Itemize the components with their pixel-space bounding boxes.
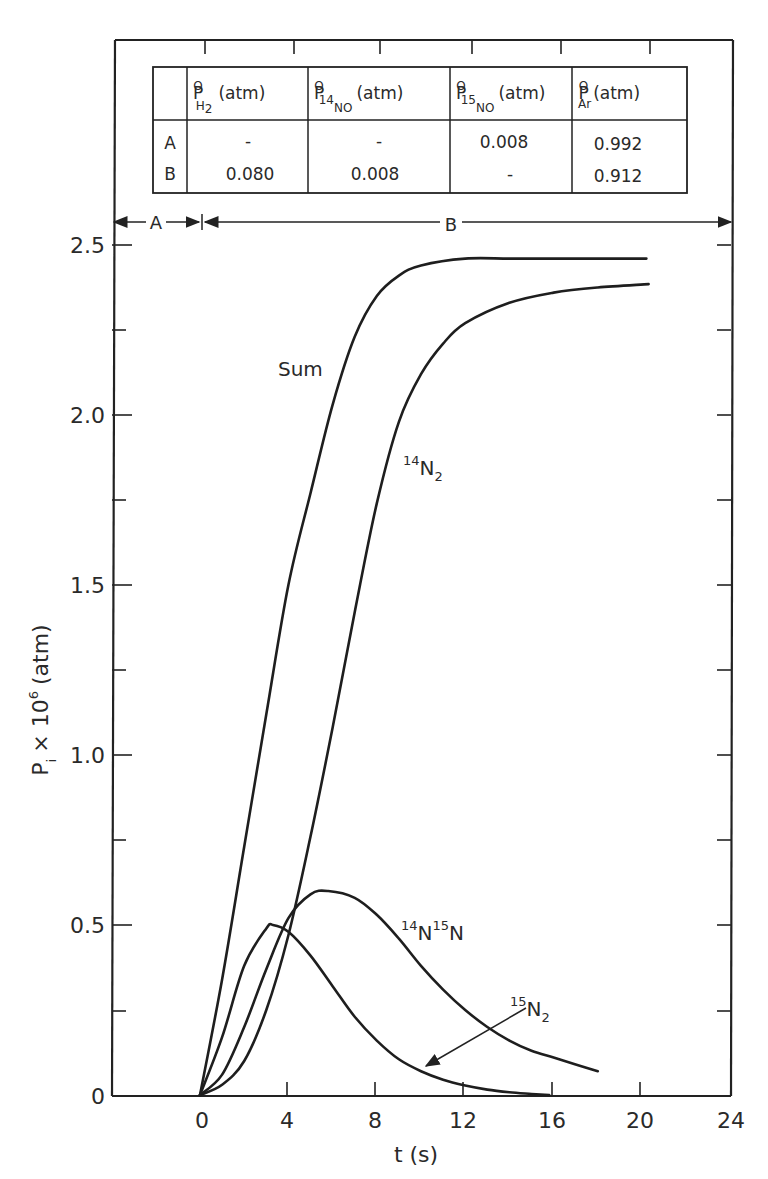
label-14n15n: 14N15N xyxy=(401,918,464,945)
chart-canvas: 0 0.5 1.0 1.5 2.0 2.5 0 4 8 12 16 20 24 … xyxy=(0,0,768,1179)
table-row-b-label: B xyxy=(164,164,176,184)
table-row-b-14no: 0.008 xyxy=(351,164,400,184)
y-axis-label: Pi× 106(atm) xyxy=(26,624,59,775)
top-ticks xyxy=(205,40,650,54)
table-header-15no: PO15NO(atm) xyxy=(456,79,545,115)
x-tick-12: 12 xyxy=(449,1108,477,1133)
x-tick-0: 0 xyxy=(195,1108,209,1133)
table-row-b-ar: 0.912 xyxy=(594,166,643,186)
label-sum: Sum xyxy=(278,357,323,381)
curve-14n2 xyxy=(200,284,649,1095)
x-tick-8: 8 xyxy=(368,1108,382,1133)
x-tick-20: 20 xyxy=(626,1108,654,1133)
x-tick-16: 16 xyxy=(538,1108,566,1133)
arrow-15n2 xyxy=(426,1008,526,1066)
region-arrows xyxy=(114,214,731,230)
label-14n2: 14N2 xyxy=(403,453,443,484)
y-tick-1.0: 1.0 xyxy=(70,743,105,768)
y-tick-0.5: 0.5 xyxy=(70,913,105,938)
label-15n2: 15N2 xyxy=(510,994,550,1025)
table-row-b-h2: 0.080 xyxy=(226,164,275,184)
table-row-a-ar: 0.992 xyxy=(594,134,643,154)
y-tick-1.5: 1.5 xyxy=(70,573,105,598)
table-header-14no: PO14NO(atm) xyxy=(314,79,403,115)
right-ticks xyxy=(717,245,731,1011)
y-tick-2.5: 2.5 xyxy=(70,233,105,258)
table-row-a-15no: 0.008 xyxy=(480,132,529,152)
table-header-ar: POAr(atm) xyxy=(578,79,640,111)
curves xyxy=(200,258,649,1095)
region-b-label: B xyxy=(445,214,457,235)
curve-14n15n xyxy=(200,891,598,1095)
svg-text:Pi× 106(atm): Pi× 106(atm) xyxy=(26,624,59,775)
y-tick-2.0: 2.0 xyxy=(70,403,105,428)
x-tick-4: 4 xyxy=(280,1108,294,1133)
y-tick-labels: 0 0.5 1.0 1.5 2.0 2.5 xyxy=(70,233,105,1109)
x-axis-label: t (s) xyxy=(394,1142,438,1167)
x-tick-labels: 0 4 8 12 16 20 24 xyxy=(195,1108,745,1133)
x-tick-24: 24 xyxy=(717,1108,745,1133)
table-header-h2: POH2(atm) xyxy=(193,79,265,116)
table-row-a-14no: - xyxy=(376,131,382,151)
parameter-table: POH2(atm) PO14NO(atm) PO15NO(atm) POAr(a… xyxy=(153,67,687,193)
region-a-label: A xyxy=(150,212,163,233)
table-row-a-label: A xyxy=(164,133,176,153)
table-row-a-h2: - xyxy=(245,131,251,151)
table-row-b-15no: - xyxy=(507,164,513,184)
y-tick-0: 0 xyxy=(91,1084,105,1109)
